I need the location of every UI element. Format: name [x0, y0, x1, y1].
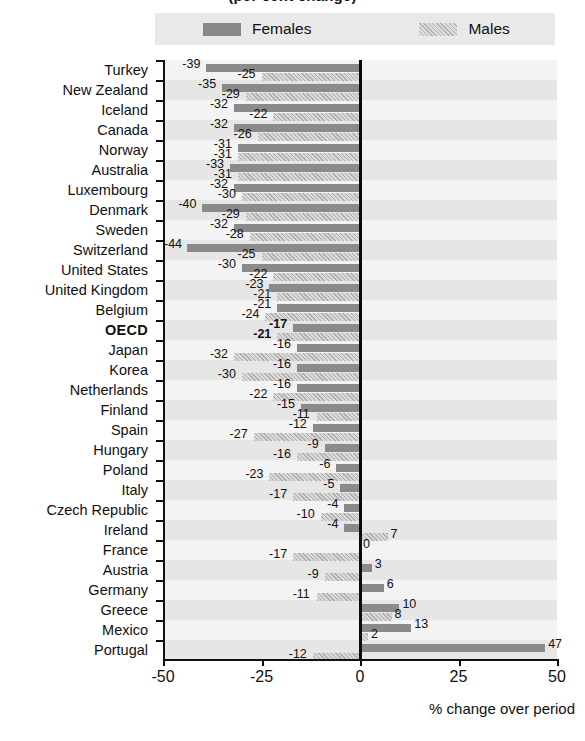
y-axis-tick: [156, 180, 163, 182]
y-axis-label-switzerland: Switzerland: [0, 243, 148, 257]
legend-swatch-females: [203, 23, 241, 36]
y-axis-tick: [156, 400, 163, 402]
y-axis-label-poland: Poland: [0, 463, 148, 477]
y-axis-label-germany: Germany: [0, 583, 148, 597]
x-axis-tick-label: -50: [133, 668, 193, 686]
y-axis-label-hungary: Hungary: [0, 443, 148, 457]
value-label-females: -16: [273, 378, 291, 390]
value-label-males: -17: [269, 488, 287, 500]
value-label-females: -39: [182, 58, 200, 70]
bar-females-oecd: [293, 324, 360, 332]
bar-females-australia: [230, 164, 360, 172]
y-axis-label-ireland: Ireland: [0, 523, 148, 537]
bar-males-denmark: [246, 213, 360, 221]
value-label-males: -10: [297, 508, 315, 520]
bar-males-greece: [360, 613, 392, 621]
value-label-males: -23: [245, 468, 263, 480]
bar-females-new-zealand: [222, 84, 360, 92]
bar-males-luxembourg: [242, 193, 360, 201]
bar-females-turkey: [206, 64, 360, 72]
chart-legend: FemalesMales: [155, 13, 555, 45]
value-label-females: -32: [210, 98, 228, 110]
x-axis-tick: [262, 659, 264, 666]
y-axis-tick: [156, 380, 163, 382]
bar-males-finland: [317, 413, 360, 421]
bar-females-italy: [340, 484, 360, 492]
value-label-females: -4: [327, 518, 338, 530]
value-label-females: -40: [178, 198, 196, 210]
value-label-males: -32: [210, 348, 228, 360]
bar-males-turkey: [262, 73, 361, 81]
y-axis-tick: [156, 580, 163, 582]
bar-females-spain: [313, 424, 360, 432]
y-axis-label-canada: Canada: [0, 123, 148, 137]
y-axis-tick: [156, 100, 163, 102]
bar-males-austria: [325, 573, 360, 581]
bar-males-sweden: [250, 233, 360, 241]
y-axis-label-portugal: Portugal: [0, 643, 148, 657]
x-axis-tick: [557, 659, 559, 666]
value-label-females: 10: [402, 598, 416, 610]
bar-males-australia: [238, 173, 360, 181]
y-axis-label-austria: Austria: [0, 563, 148, 577]
bar-males-france: [293, 553, 360, 561]
x-axis-tick: [459, 659, 461, 666]
y-axis-tick: [156, 500, 163, 502]
x-axis-tick-label: 0: [330, 668, 390, 686]
bar-females-norway: [238, 144, 360, 152]
value-label-males: -30: [218, 188, 236, 200]
bar-males-switzerland: [262, 253, 361, 261]
value-label-females: -12: [289, 418, 307, 430]
legend-label-males: Males: [468, 20, 509, 38]
y-axis-label-norway: Norway: [0, 143, 148, 157]
y-axis-label-czech-republic: Czech Republic: [0, 503, 148, 517]
y-axis-tick: [156, 520, 163, 522]
bar-females-switzerland: [187, 244, 360, 252]
y-axis-tick: [156, 220, 163, 222]
y-axis-label-italy: Italy: [0, 483, 148, 497]
legend-label-females: Females: [252, 20, 311, 38]
bar-males-canada: [258, 133, 360, 141]
bar-males-united-kingdom: [277, 293, 360, 301]
y-axis-label-new-zealand: New Zealand: [0, 83, 148, 97]
bar-males-iceland: [273, 113, 360, 121]
value-label-males: -9: [308, 568, 319, 580]
y-axis-tick: [156, 280, 163, 282]
legend-swatch-males: [419, 23, 457, 36]
bar-females-canada: [234, 124, 360, 132]
value-label-males: -26: [234, 128, 252, 140]
value-label-females: 13: [414, 618, 428, 630]
chart-title-text: (per cent change): [0, 0, 585, 4]
bar-females-korea: [297, 364, 360, 372]
chart-title-cropped: (per cent change): [0, 0, 585, 8]
x-axis-tick-label: 25: [429, 668, 489, 686]
y-axis-tick: [156, 360, 163, 362]
y-axis-tick: [156, 320, 163, 322]
x-axis-line: [163, 659, 559, 661]
y-axis-label-japan: Japan: [0, 343, 148, 357]
bar-females-hungary: [325, 444, 360, 452]
value-label-females: -17: [269, 318, 287, 330]
y-axis-label-iceland: Iceland: [0, 103, 148, 117]
x-axis-tick: [360, 659, 362, 666]
bar-females-united-kingdom: [269, 284, 360, 292]
y-axis-label-finland: Finland: [0, 403, 148, 417]
value-label-females: -6: [319, 458, 330, 470]
y-axis-line: [163, 60, 165, 660]
y-axis-label-mexico: Mexico: [0, 623, 148, 637]
y-axis-tick: [156, 440, 163, 442]
y-axis-tick: [156, 160, 163, 162]
y-axis-tick: [156, 640, 163, 642]
bar-males-norway: [238, 153, 360, 161]
y-axis-label-australia: Australia: [0, 163, 148, 177]
value-label-males: -25: [238, 68, 256, 80]
legend-item-males: Males: [419, 20, 509, 38]
value-label-females: -5: [323, 478, 334, 490]
value-label-males: -11: [293, 588, 310, 600]
x-axis-tick-labels: -50-2502550: [0, 668, 585, 690]
x-axis-title: % change over period: [0, 700, 575, 717]
value-label-males: -21: [253, 328, 271, 340]
y-axis-tick: [156, 240, 163, 242]
value-label-males: -17: [269, 548, 287, 560]
value-label-males: -22: [249, 388, 267, 400]
